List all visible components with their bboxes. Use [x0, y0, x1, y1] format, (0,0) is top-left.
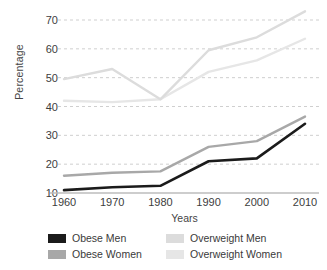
legend-item[interactable]: Obese Women [48, 246, 160, 262]
legend-swatch [48, 250, 66, 259]
x-tick-label: 2010 [293, 196, 317, 208]
x-tick-label: 2000 [245, 196, 269, 208]
chart-legend: Obese MenOverweight MenObese WomenOverwe… [48, 230, 318, 262]
legend-item[interactable]: Overweight Men [166, 230, 318, 246]
series-lines [64, 11, 305, 190]
x-tick-label: 1970 [100, 196, 124, 208]
legend-label: Obese Women [72, 248, 142, 260]
series-line [64, 117, 305, 176]
legend-item[interactable]: Overweight Women [166, 246, 318, 262]
legend-swatch [166, 234, 184, 243]
legend-label: Overweight Women [190, 248, 282, 260]
legend-swatch [48, 234, 66, 243]
x-axis-title: Years [64, 212, 305, 224]
legend-label: Obese Men [72, 232, 126, 244]
x-tick-label: 1960 [52, 196, 76, 208]
x-tick-label: 1980 [148, 196, 172, 208]
chart-container: 10203040506070 Percentage Years Obese Me… [0, 0, 327, 270]
legend-label: Overweight Men [190, 232, 266, 244]
x-tick-label: 1990 [196, 196, 220, 208]
legend-swatch [166, 250, 184, 259]
legend-item[interactable]: Obese Men [48, 230, 160, 246]
